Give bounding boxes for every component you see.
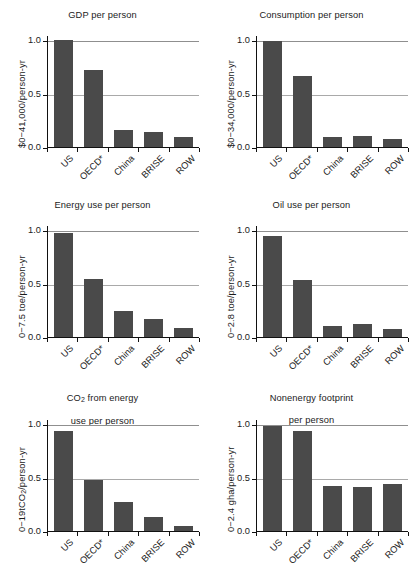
bar-china (323, 486, 342, 531)
chart-panel-oil-use-per-person: Oil use per person 0−2.8 toe/person-yr 0… (209, 190, 418, 380)
x-tick-label-oecd: OECD* (287, 154, 315, 182)
y-axis-title: 0−2.4 gha/person-yr (226, 447, 236, 532)
y-axis-title: $0−34,000/person-yr (226, 60, 236, 148)
x-axis-labels: USOECD*ChinaBRISEROW (256, 338, 408, 378)
x-tick-label-brise: BRISE (141, 538, 167, 564)
bar-slot (169, 35, 199, 147)
bar-china (114, 311, 133, 337)
panel-title: Oil use per person (209, 200, 414, 211)
bar-slot (287, 419, 317, 531)
bar-slot (348, 419, 378, 531)
x-tick-mark (199, 532, 200, 536)
x-tick-mark (408, 148, 409, 152)
bar-us (263, 236, 282, 337)
x-axis-labels: USOECD*ChinaBRISEROW (256, 148, 408, 188)
x-tick-label-oecd: OECD* (78, 154, 106, 182)
y-tick-mark (43, 231, 47, 232)
y-tick-label: 0.0 (237, 143, 250, 152)
y-tick-label: 0.0 (28, 143, 41, 152)
bar-china (114, 130, 133, 147)
x-tick-mark (408, 532, 409, 536)
panel-title-line1: Nonenergy footprint (270, 393, 354, 403)
y-tick-label: 1.0 (237, 37, 250, 46)
y-tick-label: 0.5 (28, 474, 41, 483)
bar-us (263, 426, 282, 531)
bar-oecd (293, 76, 312, 147)
bar-brise (353, 487, 372, 531)
x-tick-label-brise: BRISE (141, 344, 167, 370)
bar-slot (139, 35, 169, 147)
panel-title: Energy use per person (0, 200, 205, 211)
bar-slot (139, 419, 169, 531)
bar-slot (108, 419, 138, 531)
y-tick-mark (43, 425, 47, 426)
bar-slot (317, 225, 347, 337)
x-tick-label-china: China (322, 344, 346, 368)
bar-slot (169, 419, 199, 531)
panel-title-line1: CO2 from energy (67, 393, 139, 403)
bar-china (114, 502, 133, 531)
y-tick-label: 1.0 (237, 421, 250, 430)
bar-series (48, 419, 199, 531)
bar-brise (353, 324, 372, 337)
x-axis-labels: USOECD*ChinaBRISEROW (47, 532, 199, 570)
x-tick-label-china: China (322, 154, 346, 178)
bar-oecd (84, 70, 103, 147)
x-axis-labels: USOECD*ChinaBRISEROW (47, 338, 199, 378)
x-tick-label-row: ROW (175, 154, 198, 177)
bar-oecd (293, 431, 312, 531)
bar-oecd (84, 480, 103, 531)
y-tick-label: 0.0 (28, 527, 41, 536)
x-tick-label-us: US (60, 538, 76, 554)
plot-area: 0−19tCO2/person-yr 0.00.51.0 USOECD*Chin… (47, 420, 199, 532)
bar-slot (287, 35, 317, 147)
x-tick-label-row: ROW (384, 154, 407, 177)
bar-series (48, 225, 199, 337)
chart-panel-gdp-per-person: GDP per person $0−41,000/person-yr 0.00.… (0, 0, 209, 190)
y-tick-label: 0.0 (237, 527, 250, 536)
x-tick-label-us: US (269, 538, 285, 554)
x-axis-labels: USOECD*ChinaBRISEROW (47, 148, 199, 188)
y-tick-label: 0.5 (28, 280, 41, 289)
y-tick-label: 1.0 (28, 421, 41, 430)
bar-brise (144, 319, 163, 337)
chart-panel-co2-from-energy-use-per-person: CO2 from energy use per person 0−19tCO2/… (0, 380, 209, 570)
panel-title: Consumption per person (209, 10, 414, 21)
bar-slot (78, 419, 108, 531)
x-tick-label-china: China (113, 344, 137, 368)
x-tick-label-oecd: OECD* (287, 538, 315, 566)
bar-row (174, 526, 193, 531)
bar-slot (257, 35, 287, 147)
plot-area: 0−2.8 toe/person-yr 0.00.51.0 USOECD*Chi… (256, 226, 408, 338)
y-tick-label: 1.0 (237, 227, 250, 236)
bar-row (174, 328, 193, 337)
bar-slot (108, 35, 138, 147)
x-tick-label-brise: BRISE (350, 344, 376, 370)
x-tick-mark (408, 338, 409, 342)
y-tick-label: 0.5 (237, 280, 250, 289)
x-tick-label-oecd: OECD* (78, 538, 106, 566)
y-tick-mark (252, 231, 256, 232)
y-axis-title: 0−2.8 toe/person-yr (226, 255, 236, 338)
y-tick-mark (43, 479, 47, 480)
x-tick-label-us: US (269, 344, 285, 360)
x-tick-label-row: ROW (384, 538, 407, 561)
bar-slot (108, 225, 138, 337)
bar-row (383, 329, 402, 337)
bar-brise (144, 132, 163, 147)
x-tick-label-us: US (60, 344, 76, 360)
x-tick-label-oecd: OECD* (78, 344, 106, 372)
y-tick-mark (43, 95, 47, 96)
y-tick-mark (252, 41, 256, 42)
y-tick-label: 1.0 (28, 227, 41, 236)
bar-us (54, 233, 73, 337)
bar-slot (378, 225, 408, 337)
x-tick-label-us: US (60, 154, 76, 170)
x-tick-label-oecd: OECD* (287, 344, 315, 372)
y-tick-label: 0.5 (237, 474, 250, 483)
bar-slot (169, 225, 199, 337)
x-tick-label-china: China (113, 538, 137, 562)
y-tick-mark (252, 479, 256, 480)
y-tick-mark (43, 41, 47, 42)
chart-panel-energy-use-per-person: Energy use per person 0−7.5 toe/person-y… (0, 190, 209, 380)
